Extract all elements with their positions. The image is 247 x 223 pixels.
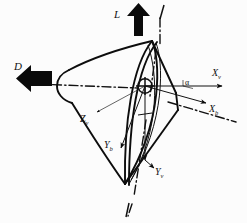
lift-arrow bbox=[127, 3, 150, 36]
reentry-vehicle-body bbox=[57, 41, 178, 185]
lift-label: L bbox=[113, 8, 120, 20]
x-body-label: Xb bbox=[208, 103, 219, 116]
lift-axis-tick bbox=[160, 5, 164, 19]
z-velocity-label: Zv bbox=[80, 113, 89, 126]
y-body-axis bbox=[121, 86, 145, 148]
x-velocity-label: Xv bbox=[211, 67, 221, 80]
drag-label: D bbox=[13, 60, 22, 72]
diagram-root: L D Xv Xb bbox=[0, 0, 247, 223]
y-velocity-label: Yv bbox=[155, 166, 164, 179]
y-body-label: Yb bbox=[104, 139, 114, 152]
z-velocity-axis bbox=[97, 86, 145, 112]
vehicle-diagram: L D Xv Xb bbox=[0, 0, 247, 223]
